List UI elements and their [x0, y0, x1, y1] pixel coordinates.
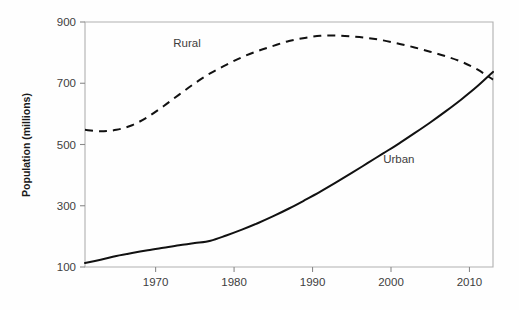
y-tick-label: 300	[57, 200, 76, 212]
axis-frame	[85, 22, 493, 267]
y-tick-label: 500	[57, 139, 76, 151]
x-tick-label: 1980	[221, 276, 247, 288]
chart-canvas: 100300500700900 19701980199020002010 Rur…	[0, 0, 519, 310]
x-axis-ticks: 19701980199020002010	[143, 267, 482, 288]
y-tick-label: 700	[57, 77, 76, 89]
series-group	[85, 35, 493, 263]
y-tick-label: 900	[57, 16, 76, 28]
x-tick-label: 2010	[457, 276, 483, 288]
series-line-rural	[85, 35, 493, 131]
plot-border	[85, 22, 493, 267]
x-tick-label: 1990	[300, 276, 326, 288]
y-axis-ticks: 100300500700900	[57, 16, 85, 273]
x-tick-label: 2000	[378, 276, 404, 288]
x-tick-label: 1970	[143, 276, 169, 288]
annotation-group: RuralUrban	[173, 37, 414, 165]
series-line-urban	[85, 72, 493, 263]
series-annotation-urban: Urban	[383, 153, 414, 165]
population-line-chart: 100300500700900 19701980199020002010 Rur…	[0, 0, 519, 310]
y-tick-label: 100	[57, 261, 76, 273]
y-axis-title: Population (millions)	[20, 93, 32, 197]
series-annotation-rural: Rural	[173, 37, 200, 49]
